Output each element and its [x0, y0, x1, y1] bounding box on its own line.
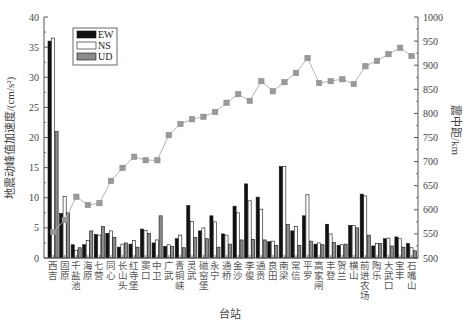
bar-ud — [55, 131, 58, 258]
bar-ns — [225, 235, 228, 258]
bar-ud — [136, 247, 139, 258]
distance-marker — [351, 81, 357, 87]
bar-group — [175, 235, 185, 258]
distance-marker — [108, 178, 114, 184]
x-tick-label: 中卫 — [152, 260, 162, 281]
y-tick-label-right: 600 — [423, 204, 438, 215]
y-tick-label-right: 850 — [423, 84, 438, 95]
x-tick-label: 贺兰 — [337, 260, 347, 281]
legend-swatch-ns — [77, 42, 96, 49]
bar-ns — [63, 197, 66, 258]
bar-ns — [179, 235, 182, 258]
x-tick-label: 横山 — [349, 260, 359, 281]
bar-ns — [144, 230, 147, 258]
y-tick-label-right: 700 — [423, 156, 438, 167]
y-tick-label-right: 550 — [423, 228, 438, 239]
distance-marker — [189, 116, 195, 122]
bar-group — [106, 231, 116, 258]
distance-marker — [143, 157, 149, 163]
x-tick-label: 通贵 — [256, 261, 266, 281]
y-tick-label-right: 750 — [423, 132, 438, 143]
bar-ew — [337, 245, 340, 258]
bar-ns — [294, 227, 297, 258]
distance-marker — [212, 109, 218, 115]
bar-ud — [205, 239, 208, 258]
bar-ud — [379, 244, 382, 258]
distance-line — [53, 48, 411, 232]
bar-ns — [202, 228, 205, 258]
x-tick-label: 广武 — [164, 260, 174, 281]
distance-marker — [62, 217, 68, 223]
x-tick-label: 前进农场 — [360, 260, 370, 301]
distance-marker — [178, 121, 184, 127]
bar-ns — [352, 225, 355, 258]
bar-ew — [256, 197, 259, 258]
bar-ns — [260, 209, 263, 258]
bar-ns — [52, 38, 55, 258]
bar-ew — [349, 225, 352, 258]
bar-ud — [217, 247, 220, 258]
bar-ew — [360, 194, 363, 258]
distance-marker — [131, 154, 137, 160]
distance-marker — [120, 165, 126, 171]
bar-ud — [113, 238, 116, 258]
bar-ud — [413, 251, 416, 258]
bar-ew — [395, 237, 398, 258]
legend-label-ns: NS — [98, 40, 111, 51]
bar-ud — [148, 233, 151, 258]
legend-swatch-ew — [77, 31, 96, 38]
x-tick-label: 常信 — [291, 260, 301, 281]
bar-ew — [187, 206, 190, 258]
distance-marker — [166, 132, 172, 138]
bar-ud — [228, 244, 231, 258]
x-tick-label: 良田 — [268, 260, 278, 281]
bar-ns — [98, 235, 101, 258]
y-tick-label-right: 500 — [423, 253, 438, 264]
bar-group — [83, 231, 93, 258]
x-tick-label: 窦口 — [141, 260, 151, 281]
bar-group — [360, 194, 370, 258]
bar-ns — [190, 221, 193, 258]
distance-marker — [97, 200, 103, 206]
x-tick-label: 陶乐 — [372, 260, 382, 281]
x-tick-label: 平罗 — [303, 261, 313, 281]
bar-group — [152, 216, 162, 258]
bar-ew — [302, 216, 305, 258]
distance-marker — [155, 157, 161, 163]
x-tick-label: 宝丰 — [395, 260, 405, 281]
bar-ud — [171, 247, 174, 258]
x-tick-label: 千盐池 — [71, 261, 81, 291]
y-axis-title-right: 震中距/km — [450, 105, 462, 156]
distance-marker — [85, 202, 91, 208]
bar-group — [198, 228, 208, 258]
x-tick-label: 李俊 — [245, 260, 255, 281]
bar-ud — [252, 239, 255, 258]
bar-ew — [221, 234, 224, 258]
bar-ew — [326, 224, 329, 258]
bar-ud — [194, 238, 197, 258]
bar-group — [48, 38, 58, 258]
distance-marker — [409, 53, 415, 59]
chart-canvas: 0510152025303540500550600650700750800850… — [0, 0, 464, 329]
x-tick-label: 石嘴山 — [407, 261, 417, 291]
bar-group — [210, 216, 220, 258]
bar-ew — [383, 239, 386, 258]
bar-ns — [237, 213, 240, 258]
x-tick-label: 固原 — [60, 261, 70, 281]
x-tick-label: 金沙 — [233, 260, 243, 281]
bar-group — [326, 224, 336, 258]
bar-ew — [406, 244, 409, 258]
bar-ud — [101, 227, 104, 258]
bar-ew — [210, 216, 213, 258]
y-tick-label-left: 30 — [29, 72, 39, 83]
distance-marker — [259, 78, 265, 84]
distance-marker — [328, 78, 334, 84]
y-tick-label-left: 15 — [29, 162, 39, 173]
x-tick-label: 高家闸 — [314, 260, 324, 291]
bar-ns — [213, 222, 216, 258]
bar-ud — [402, 247, 405, 258]
bar-group — [187, 206, 197, 258]
bar-ew — [233, 206, 236, 258]
legend: EWNSUD — [73, 28, 117, 65]
y-tick-label-left: 10 — [29, 192, 39, 203]
